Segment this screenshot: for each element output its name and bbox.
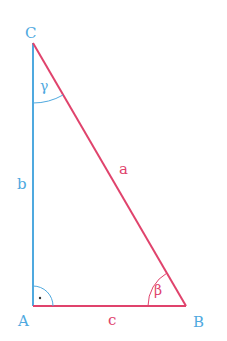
right-angle-dot (39, 297, 41, 299)
triangle-svg: C A B b c a γ β (0, 0, 227, 341)
side-label-c: c (108, 311, 116, 329)
angle-label-beta: β (154, 282, 162, 298)
right-angle-arc (33, 286, 53, 306)
vertex-label-b: B (193, 313, 204, 331)
vertex-label-c: C (25, 24, 36, 42)
vertex-label-a: A (17, 312, 29, 330)
angle-label-gamma: γ (40, 78, 48, 94)
side-a (33, 43, 186, 306)
gamma-arc (33, 95, 63, 103)
side-label-a: a (119, 160, 128, 178)
side-label-b: b (17, 175, 27, 193)
triangle-diagram: C A B b c a γ β (0, 0, 227, 341)
